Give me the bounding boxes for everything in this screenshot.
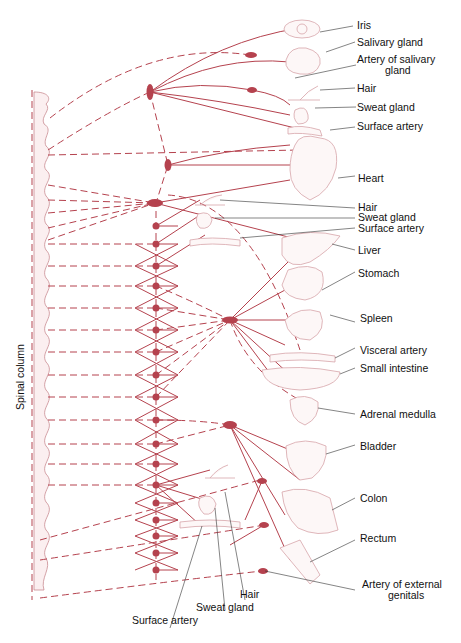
label-sweat-gland-top: Sweat gland [357,101,415,113]
label-small-intestine: Small intestine [360,362,428,374]
label-iris: Iris [357,19,371,31]
label-hair-bottom: Hair [240,588,260,600]
small-intestine-icon [262,367,340,390]
sympathetic-chain [135,200,178,580]
label-adrenal-medulla: Adrenal medulla [360,408,436,420]
genital-ganglion [258,568,268,574]
label-salivary-gland: Salivary gland [357,36,423,48]
postganglionic-fibers [150,28,300,560]
label-surface-artery-mid: Surface artery [358,222,425,234]
label-spleen: Spleen [360,312,393,324]
adrenal-medulla-icon [290,396,318,425]
spinal-column [32,90,49,600]
rectum-icon [280,540,320,584]
colon-icon [282,489,338,533]
sympathetic-nervous-system-diagram: Spinal column [0,0,461,643]
sweat-gland-mid-icon [196,213,212,228]
visceral-artery-icon [270,353,335,362]
label-surface-artery-top: Surface artery [357,120,424,132]
label-artery-salivary-2: gland [385,64,411,76]
organs [180,20,340,584]
label-visceral-artery: Visceral artery [360,344,428,356]
label-surface-artery-bottom: Surface artery [132,614,199,626]
spleen-icon [285,310,322,340]
heart-icon [290,136,337,200]
salivary-gland-icon [286,48,320,75]
spinal-column-label: Spinal column [14,344,26,410]
label-colon: Colon [360,492,388,504]
stomach-icon [282,266,323,300]
preganglionic-fibers [40,53,320,598]
label-heart: Heart [358,172,384,184]
label-artery-genitals-2: genitals [388,589,424,601]
label-sweat-gland-bottom: Sweat gland [196,601,254,613]
label-bladder: Bladder [360,440,397,452]
surface-artery-icon [288,126,322,136]
ciliary-ganglion [245,52,257,58]
label-stomach: Stomach [358,267,400,279]
sweat-gland-bottom-icon [199,496,216,514]
label-hair-top: Hair [357,82,377,94]
label-rectum: Rectum [360,532,396,544]
liver-icon [282,232,340,264]
label-liver: Liver [358,244,381,256]
label-pointers [170,26,356,628]
sweat-gland-icon [294,108,308,124]
hair-icon [288,86,320,100]
